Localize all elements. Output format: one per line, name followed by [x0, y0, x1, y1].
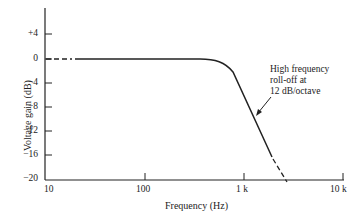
annotation-line: roll-off at: [270, 75, 329, 86]
x-tick-marks: [145, 173, 343, 180]
annotation-line: 12 dB/octave: [270, 86, 329, 97]
x-tick-label: 1 k: [236, 184, 248, 194]
y-axis-label: Voltage gain (dB): [22, 61, 33, 171]
chart-canvas: [0, 0, 360, 220]
arrow-head-icon: [256, 109, 262, 116]
x-tick-label: 10: [44, 184, 54, 194]
x-axis-label: Frequency (Hz): [165, 200, 228, 211]
y-tick-marks: [45, 34, 52, 155]
annotation-text: High frequency roll-off at 12 dB/octave: [270, 64, 329, 97]
x-tick-label: 100: [136, 184, 150, 194]
y-tick-label: +4: [8, 28, 38, 38]
x-tick-label: 10 k: [330, 184, 347, 194]
gain-curve: [75, 59, 272, 157]
y-tick-label: −20: [8, 173, 38, 183]
annotation-line: High frequency: [270, 64, 329, 75]
curve-dashed-end: [273, 159, 287, 182]
